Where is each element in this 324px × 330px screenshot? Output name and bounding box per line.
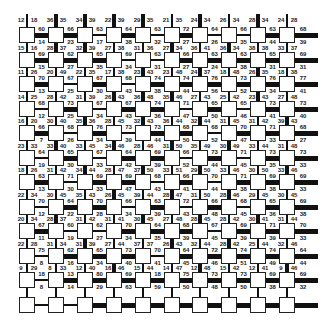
edge-label: 50 <box>204 167 211 174</box>
edge-label: 73 <box>300 149 307 156</box>
grid-node <box>106 125 122 141</box>
grid-node <box>250 248 266 264</box>
edge-label: 71 <box>269 222 276 229</box>
edge-label: 28 <box>31 240 38 247</box>
grid-node <box>192 199 208 215</box>
grid-node <box>77 27 93 43</box>
grid-node <box>221 223 237 239</box>
edge-label: 28 <box>47 216 54 223</box>
edge-label: 71 <box>269 124 276 131</box>
grid-node <box>19 27 35 43</box>
grid-node <box>250 297 266 313</box>
edge-label: 71 <box>240 149 247 156</box>
edge-label: 66 <box>125 198 132 205</box>
edge-label: 67 <box>96 100 103 107</box>
edge-label: 46 <box>118 142 125 149</box>
edge-label: 25 <box>67 113 74 120</box>
grid-node <box>250 27 266 43</box>
grid-node <box>19 248 35 264</box>
edge-label: 64 <box>38 149 45 156</box>
edge-label: 31 <box>249 118 256 125</box>
edge-label: 46 <box>291 265 298 272</box>
edge-label: 69 <box>300 198 307 205</box>
grid-node <box>135 52 151 68</box>
edge-label: 23 <box>67 39 74 46</box>
edge-label: 31 <box>191 191 198 198</box>
edge-label: 66 <box>183 149 190 156</box>
edge-label: 31 <box>278 216 285 223</box>
edge-label: 60 <box>38 26 45 33</box>
edge-label: 8 <box>40 284 43 291</box>
edge-label: 30 <box>249 167 256 174</box>
edge-label: 45 <box>204 216 211 223</box>
edge-label: 45 <box>240 211 247 218</box>
grid-node <box>106 101 122 117</box>
edge-label: 37 <box>291 44 298 51</box>
edge-label: 42 <box>60 93 67 100</box>
edge-label: 32 <box>134 118 141 125</box>
edge-label: 30 <box>96 88 103 95</box>
edge-label: 28 <box>163 191 170 198</box>
edge-label: 50 <box>183 137 190 144</box>
edge-label: 65 <box>269 198 276 205</box>
edge-label: 69 <box>125 51 132 58</box>
edge-label: 38 <box>262 44 269 51</box>
edge-label: 25 <box>67 88 74 95</box>
edge-label: 43 <box>154 186 161 193</box>
grid-node <box>192 150 208 166</box>
edge-label: 28 <box>134 142 141 149</box>
edge-label: 76 <box>96 124 103 131</box>
edge-label: 35 <box>240 39 247 46</box>
grid-node <box>135 223 151 239</box>
edge-label: 45 <box>118 118 125 125</box>
edge-label: 22 <box>67 211 74 218</box>
edge-label: 35 <box>262 69 269 76</box>
edge-label: 42 <box>125 162 132 169</box>
edge-label: 45 <box>118 191 125 198</box>
edge-label: 68 <box>38 100 45 107</box>
edge-label: 44 <box>211 162 218 169</box>
edge-label: 32 <box>191 118 198 125</box>
edge-label: 27 <box>191 93 198 100</box>
edge-label: 65 <box>67 149 74 156</box>
edge-label: 43 <box>118 93 125 100</box>
edge-label: 15 <box>220 265 227 272</box>
edge-label: 31 <box>47 240 54 247</box>
edge-label: 43 <box>204 93 211 100</box>
edge-label: 69 <box>300 51 307 58</box>
edge-label: 74 <box>154 100 161 107</box>
edge-label: 45 <box>233 118 240 125</box>
edge-label: 43 <box>125 113 132 120</box>
edge-label: 32 <box>76 44 83 51</box>
edge-label: 20 <box>18 216 25 223</box>
grid-node <box>135 27 151 43</box>
edge-label: 33 <box>300 235 307 242</box>
grid-node <box>77 297 93 313</box>
edge-label: 52 <box>211 137 218 144</box>
edge-label: 48 <box>176 216 183 223</box>
grid-node <box>250 272 266 288</box>
grid-node <box>250 199 266 215</box>
edge-label: 63 <box>38 173 45 180</box>
edge-label: 26 <box>220 17 227 24</box>
edge-label: 33 <box>60 265 67 272</box>
grid-node <box>250 52 266 68</box>
edge-label: 16 <box>105 265 112 272</box>
edge-label: 63 <box>125 284 132 291</box>
edge-label: 44 <box>147 265 154 272</box>
edge-label: 34 <box>31 191 38 198</box>
edge-label: 34 <box>76 17 83 24</box>
grid-node <box>19 174 35 190</box>
edge-label: 66 <box>67 26 74 33</box>
grid-node <box>221 272 237 288</box>
edge-label: 39 <box>278 118 285 125</box>
edge-label: 36 <box>89 118 96 125</box>
edge-label: 75 <box>38 247 45 254</box>
grid-node <box>48 223 64 239</box>
edge-label: 28 <box>220 191 227 198</box>
edge-label: 64 <box>183 247 190 254</box>
edge-label: 50 <box>240 284 247 291</box>
edge-label: 30 <box>134 216 141 223</box>
grid-node <box>192 223 208 239</box>
edge-label: 70 <box>300 222 307 229</box>
